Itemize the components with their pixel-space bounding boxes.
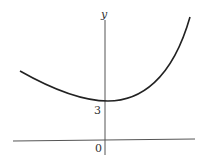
x-axis (13, 139, 195, 141)
y-intercept-label: 3 (94, 104, 101, 117)
function-graph: y 3 0 (0, 0, 199, 155)
origin-label: 0 (95, 142, 102, 155)
y-axis-label: y (100, 8, 108, 21)
